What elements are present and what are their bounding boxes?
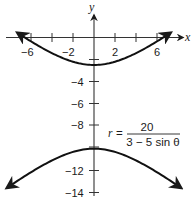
y-axis-label: y xyxy=(88,0,95,14)
x-axis-label: x xyxy=(184,30,191,44)
y-tick-label: −12 xyxy=(65,165,84,177)
y-tick-label: −8 xyxy=(71,119,84,131)
equation-annotation: r = 20 3 − 5 sin θ xyxy=(108,121,180,148)
y-tick-label: −4 xyxy=(71,76,84,88)
x-tick-label: −6 xyxy=(21,46,34,58)
formula-numerator: 20 xyxy=(141,121,154,133)
formula-r: r xyxy=(108,127,113,139)
polar-hyperbola-graph: x y −6 −2 2 6 −4 −6 −8 −12 −14 r = 20 3 … xyxy=(0,0,192,199)
y-tick-label: −6 xyxy=(71,98,84,110)
x-tick-label: 2 xyxy=(112,46,118,58)
x-tick-label: 6 xyxy=(154,46,160,58)
formula-denominator: 3 − 5 sin θ xyxy=(126,136,179,148)
x-tick-label: −2 xyxy=(62,46,75,58)
formula-equals: = xyxy=(116,127,123,139)
y-tick-label: −14 xyxy=(65,187,84,199)
